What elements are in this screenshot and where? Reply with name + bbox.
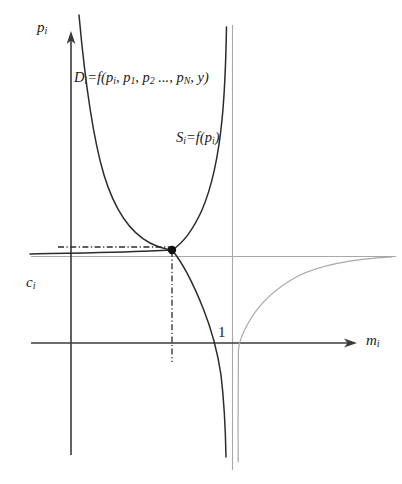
right-hyperbola-branch — [238, 257, 392, 462]
y-axis — [67, 31, 76, 455]
y-axis-label: pi — [37, 20, 47, 36]
demand-function-label: Di=f(pi, p1, p2 ..., pN, y) — [74, 70, 209, 86]
descending-branch — [172, 250, 226, 457]
equilibrium-point-marker — [168, 246, 176, 254]
cost-level-label: ci — [26, 275, 36, 291]
x-axis-label: mi — [366, 333, 380, 349]
economics-diagram: pi mi ci 1 Di=f(pi, p1, p2 ..., pN, y) S… — [0, 0, 402, 484]
left-lower-branch — [30, 250, 172, 254]
x-tick-label-one: 1 — [218, 325, 226, 340]
supply-function-label: Si=f(pi) — [176, 130, 220, 146]
demand-curve — [79, 15, 172, 250]
x-axis — [31, 338, 357, 347]
